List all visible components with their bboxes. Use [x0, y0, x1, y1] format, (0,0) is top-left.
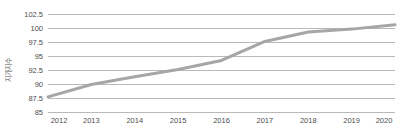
x-tick-label: 2014	[126, 116, 143, 125]
y-axis-tick-labels: 8587.59092.59597.5100102.5	[14, 0, 46, 140]
x-axis-tick-labels: 201220132014201520162017201820192020	[48, 116, 395, 136]
x-tick-label: 2012	[51, 116, 68, 125]
plot-area	[48, 14, 395, 112]
x-tick-label: 2018	[300, 116, 317, 125]
y-tick-label: 87.5	[28, 94, 43, 103]
x-tick-label: 2015	[170, 116, 187, 125]
x-tick-label: 2020	[376, 116, 393, 125]
y-tick-label: 85	[35, 108, 43, 117]
line-chart: 지가지수 8587.59092.59597.5100102.5 20122013…	[0, 0, 403, 140]
y-tick-label: 102.5	[24, 10, 43, 19]
gridline	[48, 112, 395, 113]
y-tick-label: 97.5	[28, 38, 43, 47]
x-tick-label: 2013	[83, 116, 100, 125]
y-tick-label: 90	[35, 80, 43, 89]
x-tick-label: 2017	[257, 116, 274, 125]
x-tick-label: 2016	[213, 116, 230, 125]
y-tick-label: 95	[35, 52, 43, 61]
y-tick-label: 92.5	[28, 66, 43, 75]
y-tick-label: 100	[30, 24, 43, 33]
series-line-layer	[48, 14, 395, 112]
series-line-지가지수	[48, 25, 395, 97]
x-tick-label: 2019	[343, 116, 360, 125]
y-axis-title-text: 지가지수	[3, 58, 13, 82]
